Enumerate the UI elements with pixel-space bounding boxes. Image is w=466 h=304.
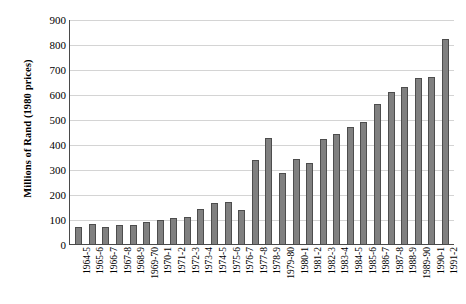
bar-slot bbox=[262, 20, 276, 244]
bar bbox=[238, 210, 245, 244]
bar bbox=[347, 127, 354, 245]
x-slot: 1991-2 bbox=[438, 247, 452, 301]
bar-slot bbox=[249, 20, 263, 244]
bar bbox=[225, 202, 232, 244]
x-slot: 1974-5 bbox=[207, 247, 221, 301]
bar-slot bbox=[289, 20, 303, 244]
bar bbox=[75, 227, 82, 245]
x-slot: 1976-7 bbox=[234, 247, 248, 301]
bar-slot bbox=[167, 20, 181, 244]
bar-slot bbox=[330, 20, 344, 244]
bar bbox=[333, 134, 340, 244]
y-tick-label: 500 bbox=[30, 115, 66, 126]
x-slot: 1989-90 bbox=[411, 247, 425, 301]
bar bbox=[130, 225, 137, 244]
bar-slot bbox=[439, 20, 453, 244]
x-slot: 1975-6 bbox=[221, 247, 235, 301]
bar bbox=[184, 217, 191, 244]
x-slot: 1979-80 bbox=[275, 247, 289, 301]
x-slot: 1965-6 bbox=[85, 247, 99, 301]
x-axis-tick-labels: 1964-51965-61966-71967-81968-91969-70197… bbox=[69, 247, 454, 301]
x-tick-label: 1991-2 bbox=[449, 247, 459, 274]
x-slot: 1978-9 bbox=[262, 247, 276, 301]
bar-slot bbox=[126, 20, 140, 244]
x-slot: 1981-2 bbox=[302, 247, 316, 301]
bar-slot bbox=[235, 20, 249, 244]
bars-layer bbox=[70, 20, 454, 244]
bar bbox=[360, 122, 367, 245]
y-tick-label: 100 bbox=[30, 215, 66, 226]
x-slot: 1986-7 bbox=[370, 247, 384, 301]
bar-slot bbox=[276, 20, 290, 244]
x-slot: 1970-1 bbox=[153, 247, 167, 301]
bar-slot bbox=[221, 20, 235, 244]
x-slot: 1983-4 bbox=[330, 247, 344, 301]
bar bbox=[415, 78, 422, 244]
x-slot: 1971-2 bbox=[166, 247, 180, 301]
bar-chart-figure: Millions of Rand (1980 prices) 010020030… bbox=[0, 0, 466, 304]
x-slot: 1977-8 bbox=[248, 247, 262, 301]
x-slot: 1988-9 bbox=[398, 247, 412, 301]
x-slot: 1980-1 bbox=[289, 247, 303, 301]
bar bbox=[197, 209, 204, 244]
bar-slot bbox=[384, 20, 398, 244]
bar bbox=[265, 138, 272, 244]
bar bbox=[293, 159, 300, 244]
y-tick-label: 600 bbox=[30, 90, 66, 101]
bar-slot bbox=[113, 20, 127, 244]
bar bbox=[442, 39, 449, 244]
bar-slot bbox=[398, 20, 412, 244]
x-slot: 1972-3 bbox=[180, 247, 194, 301]
y-tick-label: 0 bbox=[30, 240, 66, 251]
bar bbox=[143, 222, 150, 245]
bar-slot bbox=[140, 20, 154, 244]
x-slot: 1985-6 bbox=[357, 247, 371, 301]
y-tick-label: 700 bbox=[30, 65, 66, 76]
bar-slot bbox=[425, 20, 439, 244]
bar-slot bbox=[411, 20, 425, 244]
bar-slot bbox=[371, 20, 385, 244]
bar bbox=[388, 92, 395, 245]
bar bbox=[320, 139, 327, 244]
bar-slot bbox=[357, 20, 371, 244]
bar-slot bbox=[194, 20, 208, 244]
bar bbox=[116, 225, 123, 244]
bar bbox=[306, 163, 313, 244]
x-slot: 1973-4 bbox=[193, 247, 207, 301]
x-slot: 1969-70 bbox=[139, 247, 153, 301]
y-tick-label: 800 bbox=[30, 40, 66, 51]
x-slot: 1967-8 bbox=[112, 247, 126, 301]
y-tick-label: 200 bbox=[30, 190, 66, 201]
bar bbox=[89, 224, 96, 244]
bar-slot bbox=[86, 20, 100, 244]
y-tick-label: 900 bbox=[30, 15, 66, 26]
bar bbox=[428, 77, 435, 245]
bar-slot bbox=[208, 20, 222, 244]
plot-area bbox=[69, 20, 454, 245]
x-slot: 1987-8 bbox=[384, 247, 398, 301]
bar bbox=[170, 218, 177, 244]
bar-slot bbox=[153, 20, 167, 244]
bar bbox=[252, 160, 259, 244]
x-slot: 1984-5 bbox=[343, 247, 357, 301]
bar bbox=[374, 104, 381, 244]
x-slot: 1966-7 bbox=[98, 247, 112, 301]
x-slot: 1964-5 bbox=[71, 247, 85, 301]
bar bbox=[102, 227, 109, 245]
bar bbox=[157, 220, 164, 244]
bar-slot bbox=[303, 20, 317, 244]
bar bbox=[279, 173, 286, 244]
bar-slot bbox=[72, 20, 86, 244]
bar-slot bbox=[181, 20, 195, 244]
bar bbox=[401, 87, 408, 245]
bar-slot bbox=[316, 20, 330, 244]
bar bbox=[211, 203, 218, 244]
x-slot: 1968-9 bbox=[125, 247, 139, 301]
bar-slot bbox=[99, 20, 113, 244]
x-slot: 1990-1 bbox=[425, 247, 439, 301]
x-slot: 1982-3 bbox=[316, 247, 330, 301]
y-axis-tick-labels: 0100200300400500600700800900 bbox=[30, 14, 66, 250]
y-tick-label: 400 bbox=[30, 140, 66, 151]
bar-slot bbox=[344, 20, 358, 244]
y-tick-label: 300 bbox=[30, 165, 66, 176]
